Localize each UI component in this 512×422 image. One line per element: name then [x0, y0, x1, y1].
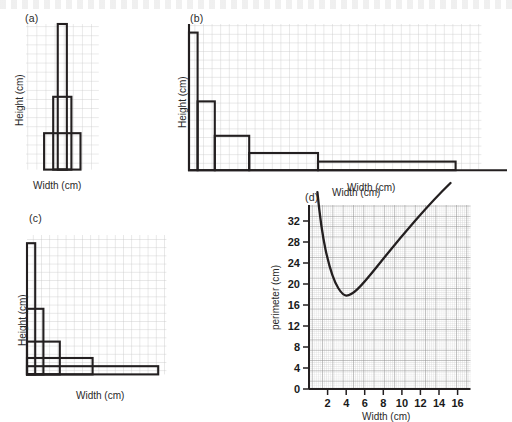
svg-text:12: 12 — [288, 320, 300, 332]
svg-text:4: 4 — [343, 397, 350, 409]
svg-text:4: 4 — [294, 362, 301, 374]
panel-b-grid — [189, 24, 481, 170]
panel-a: (a) Height (cm) Width (cm) — [0, 8, 170, 198]
panel-c-x-axis-label: Width (cm) — [76, 390, 124, 401]
panel-b-y-axis-label: Height (cm) — [177, 76, 188, 128]
panel-d-label: (d) — [305, 191, 318, 203]
panel-d-plot: 0 4 8 12 16 20 24 28 32 — [250, 185, 512, 420]
svg-text:20: 20 — [288, 278, 300, 290]
svg-text:8: 8 — [380, 397, 386, 409]
svg-text:16: 16 — [451, 397, 463, 409]
svg-text:28: 28 — [288, 236, 300, 248]
panel-d-x-tick-labels: 2 4 6 8 10 12 14 16 — [325, 397, 464, 409]
panel-c-y-axis-label: Height (cm) — [17, 294, 28, 346]
panel-d-major-grid — [309, 205, 471, 389]
panel-d-y-tick-labels: 0 4 8 12 16 20 24 28 32 — [288, 215, 301, 395]
panel-b-label: (b) — [190, 12, 203, 24]
panel-c: (c) Height (cm) Wi — [0, 198, 250, 420]
panel-a-plot — [0, 8, 170, 198]
panel-c-label: (c) — [29, 212, 42, 224]
svg-text:24: 24 — [288, 257, 301, 269]
svg-text:6: 6 — [362, 397, 368, 409]
panel-d-top-title: Width (cm) — [332, 187, 380, 198]
panel-a-label: (a) — [25, 12, 38, 24]
svg-text:32: 32 — [288, 215, 300, 227]
svg-text:14: 14 — [433, 397, 446, 409]
panel-d-x-axis-label: Width (cm) — [362, 411, 410, 422]
panel-b: (b) Height (cm) — [160, 8, 512, 198]
svg-text:0: 0 — [294, 383, 300, 395]
panel-d-y-axis-label: perimeter (cm) — [270, 265, 281, 330]
svg-text:8: 8 — [294, 341, 300, 353]
panel-a-y-axis-label: Height (cm) — [14, 74, 25, 126]
svg-text:12: 12 — [414, 397, 426, 409]
panel-d: (d) Width (cm) perimeter (cm) — [250, 185, 512, 420]
panel-b-plot — [160, 8, 512, 198]
panel-c-grid — [27, 235, 166, 374]
panel-c-plot — [0, 198, 250, 420]
svg-text:10: 10 — [396, 397, 408, 409]
panel-a-x-axis-label: Width (cm) — [33, 180, 81, 191]
svg-text:16: 16 — [288, 299, 300, 311]
svg-text:2: 2 — [325, 397, 331, 409]
